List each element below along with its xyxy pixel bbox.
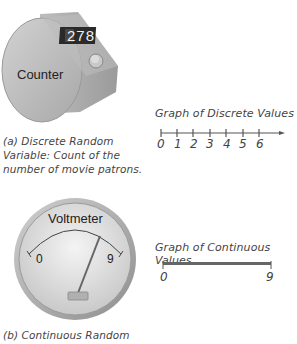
- counter-caption: (a) Discrete Random Variable: Count of t…: [3, 134, 142, 176]
- tick-6: 6: [256, 137, 264, 151]
- voltmeter-min-label: 0: [36, 252, 43, 266]
- voltmeter-device: Voltmeter 0 9: [12, 196, 138, 322]
- voltmeter-max-label: 9: [107, 252, 114, 266]
- continuous-number-line: [162, 260, 274, 270]
- caption-line: (b) Continuous Random: [3, 328, 130, 342]
- caption-line: number of movie patrons.: [3, 162, 142, 176]
- continuous-line-icon: [162, 260, 274, 270]
- voltmeter-caption: (b) Continuous Random: [3, 328, 130, 342]
- counter-display: 278: [63, 27, 99, 44]
- caption-line: Variable: Count of the: [3, 148, 142, 162]
- continuous-min-label: 0: [160, 270, 168, 284]
- counter-device: 278 Counter: [0, 0, 150, 128]
- tick-2: 2: [190, 137, 198, 151]
- tick-3: 3: [206, 137, 214, 151]
- tick-5: 5: [239, 137, 247, 151]
- tick-4: 4: [223, 137, 231, 151]
- continuous-max-label: 9: [266, 270, 274, 284]
- counter-label: Counter: [17, 67, 63, 82]
- counter-illustration-icon: [0, 0, 150, 128]
- voltmeter-label: Voltmeter: [48, 211, 103, 226]
- tick-0: 0: [157, 137, 165, 151]
- tick-1: 1: [174, 137, 182, 151]
- caption-line: (a) Discrete Random: [3, 134, 142, 148]
- discrete-graph-title: Graph of Discrete Values: [155, 107, 294, 120]
